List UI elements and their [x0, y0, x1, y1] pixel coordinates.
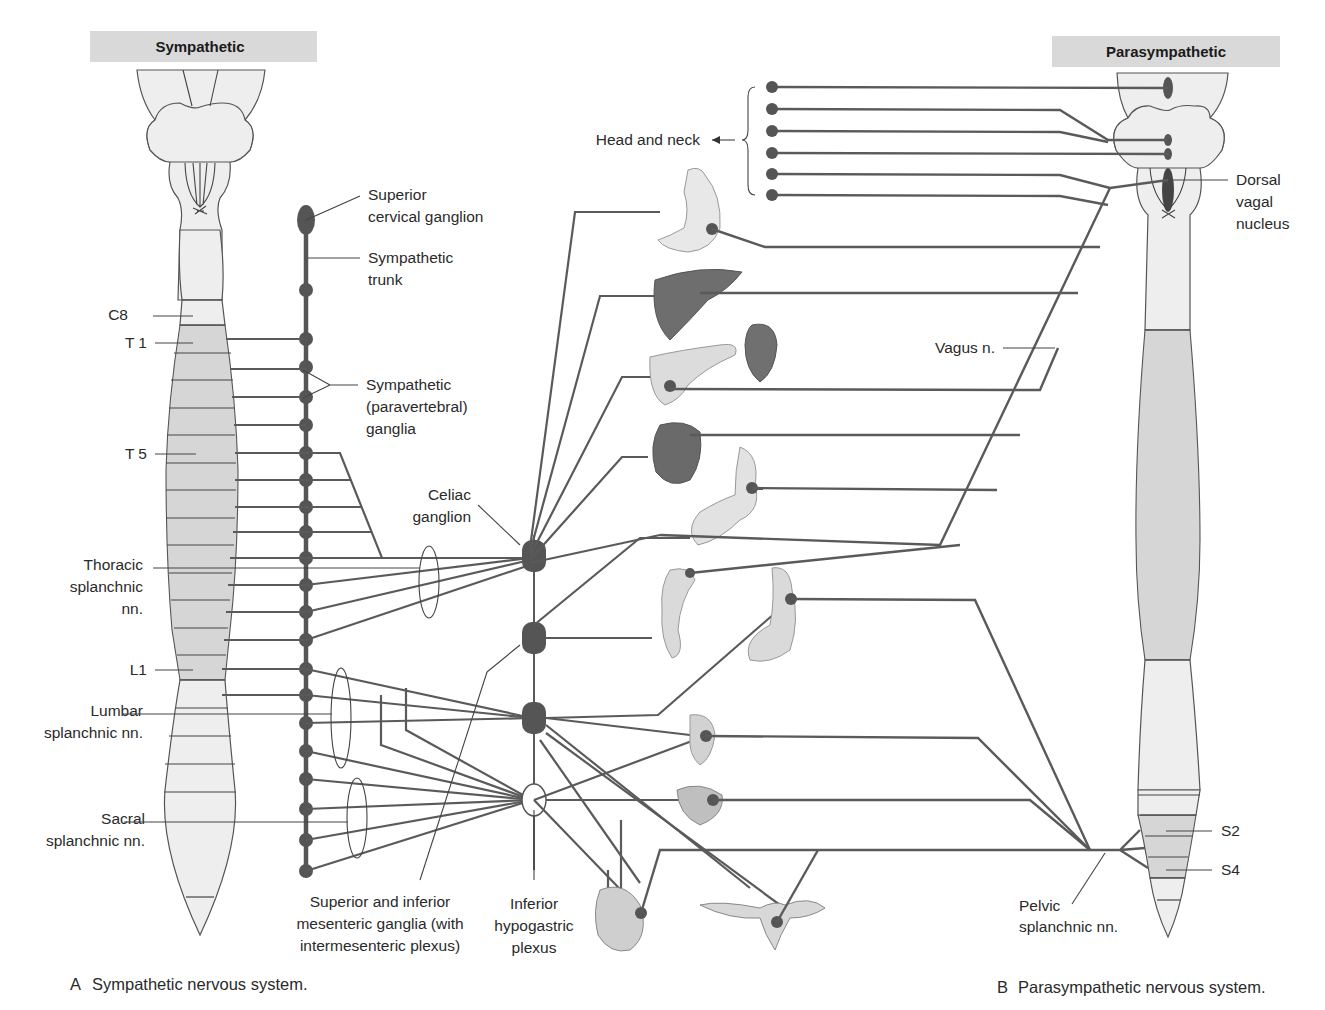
svg-text:hypogastric: hypogastric	[494, 917, 574, 934]
svg-text:Pelvic: Pelvic	[1019, 897, 1061, 914]
svg-text:A: A	[70, 975, 81, 993]
sympathetic-trunk-labels: Superior cervical ganglion Sympathetic t…	[303, 186, 483, 437]
svg-text:Dorsal: Dorsal	[1236, 171, 1281, 188]
dorsal-vagal-nucleus	[1162, 168, 1174, 212]
svg-text:trunk: trunk	[368, 271, 403, 288]
svg-text:Sacral: Sacral	[101, 810, 145, 827]
small-intestine	[691, 447, 756, 545]
stomach	[658, 168, 720, 252]
svg-text:Lumbar: Lumbar	[90, 702, 143, 719]
svg-text:splanchnic nn.: splanchnic nn.	[1019, 918, 1118, 935]
head-neck-label: Head and neck	[596, 131, 701, 148]
svg-text:cervical ganglion: cervical ganglion	[368, 208, 483, 225]
svg-text:Thoracic: Thoracic	[84, 556, 144, 573]
organs	[595, 168, 825, 951]
segment-t5-label: T 5	[125, 445, 147, 462]
male-genitalia	[595, 887, 643, 951]
vagus-label: Vagus n.	[935, 339, 995, 356]
colon-ascending	[662, 569, 695, 658]
uterus-ovaries	[700, 901, 825, 950]
svg-text:nucleus: nucleus	[1236, 215, 1290, 232]
vagus-label-group: Vagus n. Dorsal vagal nucleus	[935, 171, 1290, 356]
right-brainstem-and-spinal-cord	[1114, 73, 1228, 937]
svg-text:B: B	[997, 978, 1008, 996]
pelvic-splanchnic-nerves	[641, 599, 1148, 922]
spleen	[745, 324, 777, 382]
svg-text:Superior and inferior: Superior and inferior	[310, 893, 450, 910]
svg-text:ganglia: ganglia	[366, 420, 416, 437]
liver	[654, 269, 742, 340]
svg-text:vagal: vagal	[1236, 193, 1273, 210]
svg-text:Parasympathetic: Parasympathetic	[1106, 43, 1226, 60]
svg-text:intermesenteric plexus): intermesenteric plexus)	[300, 937, 460, 954]
svg-text:Celiac: Celiac	[428, 486, 471, 503]
svg-text:splanchnic: splanchnic	[70, 578, 143, 595]
svg-text:Parasympathetic nervous system: Parasympathetic nervous system.	[1018, 978, 1266, 996]
segment-s4-label: S4	[1221, 861, 1240, 878]
left-brainstem-and-spinal-cord	[137, 70, 265, 935]
svg-text:splanchnic nn.: splanchnic nn.	[46, 832, 145, 849]
svg-text:mesenteric ganglia (with: mesenteric ganglia (with	[296, 915, 463, 932]
svg-text:Sympathetic nervous system.: Sympathetic nervous system.	[92, 975, 308, 993]
svg-text:plexus: plexus	[512, 939, 557, 956]
bladder	[677, 786, 722, 825]
svg-text:ganglion: ganglion	[412, 508, 471, 525]
head-neck-fibers: Head and neck	[596, 81, 1168, 205]
inferior-mesenteric-ganglion	[522, 702, 546, 734]
segment-l1-label: L1	[130, 661, 147, 678]
pancreas	[650, 344, 736, 405]
sympathetic-header: Sympathetic	[90, 31, 317, 62]
caption-a: A Sympathetic nervous system.	[70, 975, 308, 993]
svg-text:Superior: Superior	[368, 186, 427, 203]
svg-text:Inferior: Inferior	[510, 895, 558, 912]
svg-text:Sympathetic: Sympathetic	[368, 249, 454, 266]
caption-b: B Parasympathetic nervous system.	[997, 978, 1266, 996]
superior-mesenteric-ganglion	[522, 622, 546, 654]
svg-text:Sympathetic: Sympathetic	[155, 38, 244, 55]
svg-text:(paravertebral): (paravertebral)	[366, 398, 468, 415]
kidney	[653, 423, 701, 484]
svg-text:Sympathetic: Sympathetic	[366, 376, 452, 393]
segment-t1-label: T 1	[125, 334, 147, 351]
autonomic-nervous-system-diagram: Sympathetic Parasympathetic	[0, 0, 1325, 1010]
prevertebral-ganglia	[522, 535, 546, 880]
segment-c8-label: C8	[108, 306, 128, 323]
segment-s2-label: S2	[1221, 822, 1240, 839]
svg-text:nn.: nn.	[121, 600, 143, 617]
colon-descending	[748, 568, 795, 662]
svg-text:splanchnic nn.: splanchnic nn.	[44, 724, 143, 741]
parasympathetic-header: Parasympathetic	[1052, 36, 1280, 67]
